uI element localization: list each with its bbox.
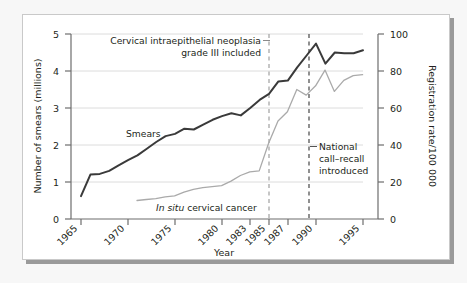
- figure-root: 5 4 3 2 1 0 Number of smears (millions): [0, 0, 467, 283]
- in-situ-series-label-italic: In situ: [156, 202, 184, 213]
- cervical-screening-line-chart: 5 4 3 2 1 0 Number of smears (millions): [23, 15, 449, 259]
- left-y-axis: 5 4 3 2 1 0 Number of smears (millions): [32, 29, 71, 225]
- call-recall-annotation-line-2: call–recall: [319, 153, 364, 164]
- left-tick-label-4: 4: [53, 66, 59, 77]
- x-tick-label-1990: 1990: [290, 223, 315, 248]
- call-recall-annotation-line-1: National: [319, 141, 357, 152]
- svg-text:In situ cervical cancer: In situ cervical cancer: [156, 202, 257, 213]
- figure-panel: 5 4 3 2 1 0 Number of smears (millions): [22, 14, 450, 260]
- right-axis-title: Registration rate/100 000: [427, 65, 438, 187]
- x-tick-label-1965: 1965: [55, 223, 80, 248]
- x-tick-label-1983: 1983: [224, 223, 249, 248]
- call-recall-annotation: National call–recall introduced: [310, 141, 368, 176]
- x-tick-label-1987: 1987: [262, 223, 287, 248]
- right-y-axis: 100 80 60 40 20 0 Registration rate/100 …: [378, 29, 438, 225]
- left-tick-label-1: 1: [53, 177, 59, 188]
- right-tick-label-80: 80: [390, 66, 402, 77]
- left-tick-label-5: 5: [53, 29, 59, 40]
- cin3-annotation: Cervical intraepithelial neoplasia grade…: [110, 35, 270, 58]
- x-axis-title: Year: [213, 247, 234, 258]
- x-tick-label-1970: 1970: [102, 223, 127, 248]
- cin3-annotation-line-2: grade III included: [181, 47, 261, 58]
- right-tick-label-60: 60: [390, 103, 402, 114]
- in-situ-series-label: In situ cervical cancer: [156, 202, 257, 213]
- x-tick-label-1995: 1995: [337, 223, 362, 248]
- right-tick-label-0: 0: [390, 214, 396, 225]
- left-tick-label-0: 0: [53, 214, 59, 225]
- right-tick-label-20: 20: [390, 177, 402, 188]
- smears-series-label: Smears: [126, 128, 161, 139]
- right-tick-label-40: 40: [390, 140, 402, 151]
- left-tick-label-3: 3: [53, 103, 59, 114]
- right-tick-label-100: 100: [390, 29, 408, 40]
- left-axis-title: Number of smears (millions): [32, 58, 43, 193]
- x-tick-label-1980: 1980: [196, 223, 221, 248]
- x-tick-label-1975: 1975: [149, 223, 174, 248]
- left-tick-label-2: 2: [53, 140, 59, 151]
- x-tick-label-1985: 1985: [243, 223, 268, 248]
- x-axis: 1965 1970 1975 1980 1983 1985 1987 1990 …: [55, 219, 378, 258]
- cin3-annotation-line-1: Cervical intraepithelial neoplasia: [110, 35, 261, 46]
- call-recall-annotation-line-3: introduced: [319, 165, 368, 176]
- in-situ-series-label-rest: cervical cancer: [184, 202, 257, 213]
